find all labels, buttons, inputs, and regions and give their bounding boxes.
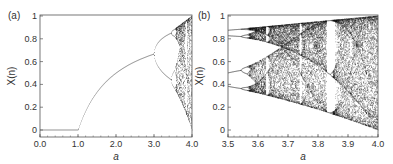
x-tick-label: 3.5 xyxy=(222,139,235,149)
figure: (a) 0.01.02.03.04.000.20.40.60.81 a X(n)… xyxy=(0,0,393,164)
bifurcation-points xyxy=(228,16,378,130)
y-tick-label: 0.2 xyxy=(212,102,225,112)
panel-b: (b) 3.53.63.73.83.94.000.20.40.60.81 a X… xyxy=(194,10,384,162)
x-tick-label: 3.8 xyxy=(312,139,325,149)
panel-b-label: (b) xyxy=(198,10,210,21)
x-tick-label: 3.7 xyxy=(282,139,295,149)
x-tick-label: 3.0 xyxy=(148,139,161,149)
panel-a: (a) 0.01.02.03.04.000.20.40.60.81 a X(n) xyxy=(6,10,198,162)
y-tick-label: 0.6 xyxy=(24,57,37,67)
x-tick-label: 0.0 xyxy=(34,139,47,149)
x-tick-label: 2.0 xyxy=(110,139,123,149)
y-axis-label-a: X(n) xyxy=(6,67,17,86)
y-tick-label: 0 xyxy=(220,125,225,135)
bifurcation-points xyxy=(40,16,192,130)
y-axis-label-b: X(n) xyxy=(194,67,205,86)
x-axis-label-a: a xyxy=(113,151,119,162)
y-tick-label: 0.4 xyxy=(212,79,225,89)
x-tick-label: 3.6 xyxy=(252,139,265,149)
x-axis-label-b: a xyxy=(300,151,306,162)
plot-a-frame xyxy=(40,15,192,137)
y-tick-label: 0.8 xyxy=(212,34,225,44)
y-tick-label: 0.2 xyxy=(24,102,37,112)
y-tick-label: 0.4 xyxy=(24,79,37,89)
x-tick-label: 4.0 xyxy=(186,139,199,149)
y-tick-label: 1 xyxy=(220,11,225,21)
y-tick-label: 0.6 xyxy=(212,57,225,67)
panel-a-label: (a) xyxy=(8,10,20,21)
y-tick-label: 0 xyxy=(32,125,37,135)
y-tick-label: 0.8 xyxy=(24,34,37,44)
x-tick-label: 1.0 xyxy=(72,139,85,149)
x-tick-label: 3.9 xyxy=(342,139,355,149)
y-tick-label: 1 xyxy=(32,11,37,21)
x-tick-label: 4.0 xyxy=(372,139,385,149)
